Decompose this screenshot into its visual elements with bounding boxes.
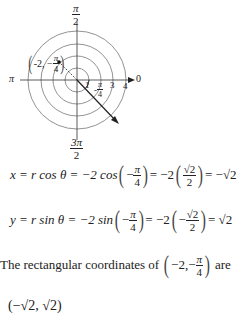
coord-den: 4: [196, 266, 204, 278]
arg-num: π: [133, 163, 141, 176]
conclusion-line: The rectangular coordinates of (−2,−π4) …: [0, 252, 231, 278]
point-r: -2: [34, 58, 42, 69]
label-den: 2: [72, 15, 80, 27]
label-3pi-over-2: 3π 2: [70, 136, 83, 161]
eq-mid: = −2: [150, 167, 174, 182]
label-zero: 0: [136, 73, 141, 84]
partial-result-line: (−√2, √2): [8, 298, 62, 314]
polar-axis-arrow-icon: [128, 77, 135, 83]
label-num: π: [97, 80, 103, 90]
eq-mid: = −2: [145, 212, 169, 227]
label-pi-over-2: π 2: [72, 2, 80, 27]
angle-annotation: -π4: [94, 80, 103, 99]
label-den: 4: [53, 64, 60, 74]
tick-4: 4: [123, 81, 128, 91]
val-num: √2: [183, 163, 197, 176]
arg-num: π: [129, 208, 137, 221]
coord-num: π: [196, 253, 204, 266]
conclusion-text: The rectangular coordinates of: [0, 257, 159, 272]
conclusion-after: are: [215, 257, 231, 272]
coord-sign: −: [188, 257, 195, 272]
tick-1: 1: [85, 80, 90, 90]
label-den: 2: [70, 149, 83, 161]
x-equation: x = r cos θ = −2 cos(−π4)= −2(√22)= −√2: [10, 162, 237, 188]
eq-lhs: x = r cos θ = −2 cos: [10, 167, 117, 182]
eq-result: = √2: [208, 212, 232, 227]
eq-result: = −√2: [205, 167, 237, 182]
val-sign: −: [178, 212, 185, 227]
label-num: π: [72, 2, 80, 15]
label-num: π: [53, 53, 60, 64]
point-label: (-2, −π4): [27, 50, 66, 76]
eq-lhs: y = r sin θ = −2 sin: [10, 212, 113, 227]
val-num: √2: [186, 208, 200, 221]
coord-r: −2,: [171, 257, 188, 272]
label-pi: π: [9, 73, 14, 84]
val-den: 2: [186, 221, 200, 233]
arg-den: 4: [129, 221, 137, 233]
label-num: 3π: [70, 136, 83, 149]
label-den: 4: [97, 90, 103, 99]
polar-graph: [0, 0, 245, 160]
arg-sign: −: [126, 167, 133, 182]
val-den: 2: [183, 176, 197, 188]
tick-3: 3: [110, 80, 115, 90]
arg-den: 4: [133, 176, 141, 188]
y-equation: y = r sin θ = −2 sin(−π4)= −2(−√22)= √2: [10, 207, 232, 233]
arg-sign: −: [122, 212, 129, 227]
